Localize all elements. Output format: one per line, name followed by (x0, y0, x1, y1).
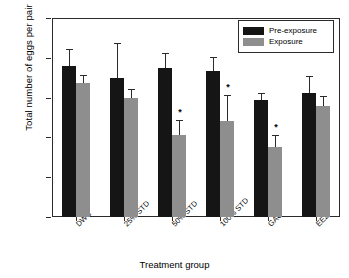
bar (62, 66, 76, 217)
bar (302, 93, 316, 217)
error-bar-cap (114, 43, 121, 44)
error-bar (69, 49, 70, 66)
error-bar-cap (224, 95, 231, 96)
chart-legend: Pre-exposure Exposure (238, 20, 334, 53)
error-bar-cap (210, 57, 217, 58)
significance-marker: * (226, 83, 230, 92)
significance-marker: * (274, 123, 278, 132)
y-axis-title: Total number of eggs per pair (23, 0, 34, 138)
bar (316, 106, 330, 217)
legend-swatch-pre-exposure (243, 27, 264, 35)
legend-swatch-exposure (243, 38, 264, 46)
bar (206, 71, 220, 217)
error-bar-cap (272, 135, 279, 136)
error-bar (227, 95, 228, 121)
significance-marker: * (178, 108, 182, 117)
bar (158, 68, 172, 217)
legend-label-pre-exposure: Pre-exposure (269, 26, 317, 35)
error-bar-cap (306, 76, 313, 77)
error-bar-cap (162, 53, 169, 54)
legend-entry-exposure: Exposure (243, 37, 329, 46)
bar (124, 98, 138, 217)
error-bar (213, 57, 214, 71)
error-bar-cap (128, 89, 135, 90)
error-bar (83, 75, 84, 84)
bar (254, 100, 268, 217)
bar (76, 83, 90, 217)
error-bar (309, 76, 310, 93)
error-bar (131, 89, 132, 98)
bar (220, 121, 234, 217)
error-bar-cap (176, 120, 183, 121)
error-bar-cap (258, 93, 265, 94)
bar (110, 78, 124, 217)
y-tick-line (46, 58, 51, 59)
x-axis-title: Treatment group (0, 259, 349, 270)
error-bar-cap (320, 96, 327, 97)
error-bar-cap (66, 49, 73, 50)
y-tick-line (46, 177, 51, 178)
error-bar (261, 93, 262, 100)
error-bar (179, 120, 180, 135)
figure-canvas: Total number of eggs per pair 0500100015… (0, 0, 349, 278)
error-bar (323, 96, 324, 106)
y-tick-line (46, 217, 51, 218)
y-tick-line (46, 18, 51, 19)
bar (268, 147, 282, 217)
bar (172, 135, 186, 217)
y-tick-line (46, 98, 51, 99)
error-bar-cap (80, 75, 87, 76)
legend-entry-pre-exposure: Pre-exposure (243, 26, 329, 35)
error-bar (165, 53, 166, 68)
error-bar (117, 43, 118, 77)
error-bar (275, 135, 276, 147)
y-tick-line (46, 137, 51, 138)
legend-label-exposure: Exposure (269, 37, 303, 46)
